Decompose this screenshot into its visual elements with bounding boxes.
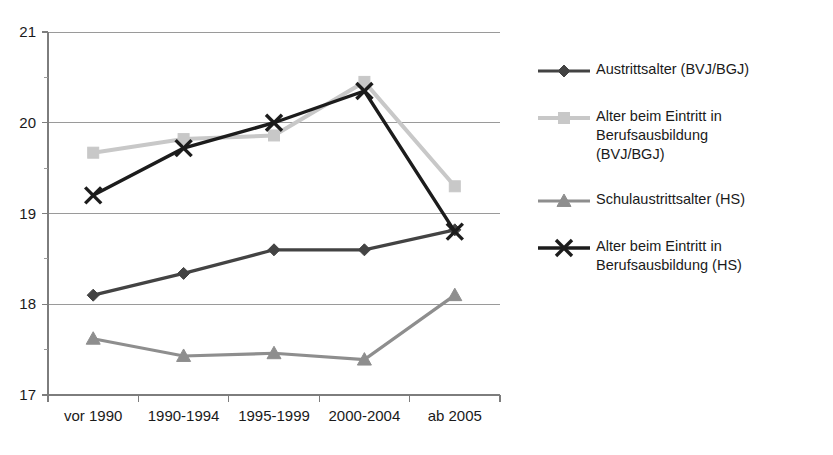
- x-axis-tick-labels: vor 19901990-19941995-19992000-2004ab 20…: [64, 407, 482, 424]
- series-cross-x: [85, 83, 463, 240]
- y-axis-label-19: 19: [19, 205, 36, 222]
- y-axis-tick-labels: 1718192021: [19, 23, 36, 403]
- legend-swatch-triangle: [536, 191, 592, 211]
- legend-swatch-square: [536, 108, 592, 128]
- data-point-marker: [86, 332, 100, 344]
- chart-figure: 1718192021 vor 19901990-19941995-1999200…: [0, 0, 833, 455]
- data-point-marker: [448, 288, 462, 300]
- x-axis-label-1995-1999: 1995-1999: [238, 407, 310, 424]
- data-point-marker: [269, 130, 280, 141]
- legend-swatch-diamond: [536, 61, 592, 81]
- chart-legend: Austrittsalter (BVJ/BGJ)Alter beim Eintr…: [536, 60, 833, 301]
- x-axis-label-1990-1994: 1990-1994: [148, 407, 220, 424]
- x-axis-label-2000-2004: 2000-2004: [329, 407, 401, 424]
- legend-label: Alter beim Eintritt in Berufsausbildung …: [596, 107, 722, 164]
- data-point-marker: [88, 147, 99, 158]
- x-axis-label-ab-2005: ab 2005: [428, 407, 482, 424]
- x-axis-label-vor-1990: vor 1990: [64, 407, 122, 424]
- line-chart-svg: 1718192021 vor 19901990-19941995-1999200…: [0, 0, 520, 455]
- gridlines-group: [48, 32, 500, 395]
- data-point-marker: [558, 65, 570, 77]
- series-line: [93, 91, 455, 232]
- data-point-marker: [268, 244, 280, 256]
- legend-label: Austrittsalter (BVJ/BGJ): [596, 60, 749, 79]
- legend-swatch-cross-x: [536, 238, 592, 258]
- legend-label: Schulaustrittsalter (HS): [596, 190, 745, 209]
- legend-entry-1[interactable]: Alter beim Eintritt in Berufsausbildung …: [536, 107, 833, 164]
- series-diamond: [87, 224, 461, 301]
- series-triangle: [86, 288, 462, 365]
- tickmarks-group: [42, 32, 500, 402]
- data-point-marker: [449, 181, 460, 192]
- series-line: [93, 230, 455, 295]
- y-axis-label-17: 17: [19, 386, 36, 403]
- data-point-marker: [358, 244, 370, 256]
- data-series-group: [85, 76, 463, 365]
- legend-entry-2[interactable]: Schulaustrittsalter (HS): [536, 190, 833, 211]
- data-point-marker: [559, 113, 570, 124]
- plot-area: 1718192021 vor 19901990-19941995-1999200…: [0, 0, 520, 455]
- series-square: [88, 76, 461, 191]
- y-axis-label-18: 18: [19, 295, 36, 312]
- data-point-marker: [85, 187, 101, 203]
- data-point-marker: [87, 289, 99, 301]
- legend-label: Alter beim Eintritt in Berufsausbildung …: [596, 237, 742, 275]
- y-axis-label-20: 20: [19, 114, 36, 131]
- data-point-marker: [178, 267, 190, 279]
- legend-entry-0[interactable]: Austrittsalter (BVJ/BGJ): [536, 60, 833, 81]
- legend-entry-3[interactable]: Alter beim Eintritt in Berufsausbildung …: [536, 237, 833, 275]
- y-axis-label-21: 21: [19, 23, 36, 40]
